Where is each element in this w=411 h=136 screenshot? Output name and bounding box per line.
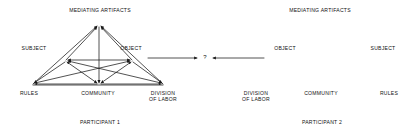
caption-participant-2: PARTICIPANT 2 [302, 119, 342, 125]
node-label-community-p2: COMMUNITY [304, 90, 338, 96]
node-label-rules-p1: RULES [20, 90, 38, 96]
figure-canvas: MEDIATING ARTIFACTS SUBJECT OBJECT RULES… [0, 0, 411, 136]
diagram-vector-layer [0, 0, 411, 136]
node-label-subject-p1: SUBJECT [22, 45, 47, 51]
node-label-community-p1: COMMUNITY [81, 90, 115, 96]
division-of-labor-line-2: OF LABOR [242, 96, 270, 102]
node-label-rules-p2: RULES [380, 90, 398, 96]
caption-participant-1: PARTICIPANT 1 [80, 119, 120, 125]
edge-division-to-apex [101, 26, 163, 84]
node-label-object-p1: OBJECT [120, 45, 142, 51]
node-label-division-of-labor-p1: DIVISION OF LABOR [149, 90, 177, 103]
division-of-labor-line-2: OF LABOR [149, 96, 177, 102]
node-label-object-p2: OBJECT [274, 45, 296, 51]
question-mark-icon: ? [203, 54, 206, 60]
node-label-division-of-labor-p2: DIVISION OF LABOR [242, 90, 270, 103]
edge-rules-to-apex [33, 26, 97, 84]
node-label-subject-p2: SUBJECT [371, 45, 396, 51]
edge-object-to-apex [101, 27, 132, 60]
edge-subject-to-apex [66, 27, 97, 60]
activity-triangle-participant-1 [33, 26, 163, 85]
node-label-mediating-artifacts-p2: MEDIATING ARTIFACTS [289, 7, 351, 13]
node-label-mediating-artifacts-p1: MEDIATING ARTIFACTS [69, 7, 131, 13]
